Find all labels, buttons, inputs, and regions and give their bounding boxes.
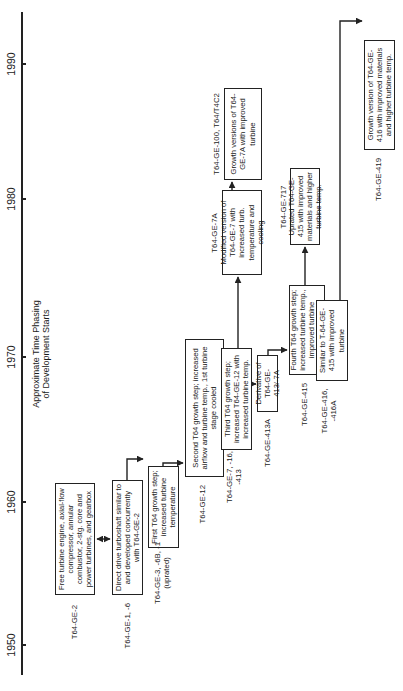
- node-ge7-model: T64-GE-7, -16, -413: [225, 450, 243, 504]
- node-ge3-model: T64-GE-3, -6B, -1 (uprated): [153, 538, 171, 608]
- node-ge12-description: Second T64 growth step; increased airflo…: [191, 343, 219, 473]
- node-ge416-box: Similar to T-64-GE-415 with improved tur…: [316, 300, 348, 381]
- node-ge7-box: Third T64 growth step; increased T64-GE-…: [221, 348, 252, 450]
- node-ge416-description: Similar to T-64-GE-415 with improved tur…: [318, 304, 346, 377]
- node-ge413a-model: T64-GE-413A: [263, 419, 272, 467]
- node-ge717-box: Uprated T64-GE-415 with improved materia…: [290, 168, 320, 245]
- node-ge413a-box: Derivative of T64-GE-413/-7A: [257, 355, 278, 412]
- node-ge100-model: T64-GE-100, T64/T4C2: [212, 93, 221, 175]
- diagram-canvas: 1950 1960 1970 1980 1990 Approximate Tim…: [0, 0, 403, 691]
- node-ge7a-description: Modified version of T64-GE-7 with increa…: [219, 194, 265, 271]
- node-ge3-box: First T64 growth step; increased turbine…: [148, 466, 179, 548]
- node-ge100-box: Growth versions of T64-GE-7A with improv…: [224, 88, 262, 180]
- node-ge717-model: T64-GE-717: [279, 186, 288, 229]
- node-ge1-description: Direct drive turboshaft similar to and d…: [114, 484, 142, 591]
- node-ge1-box: Direct drive turboshaft similar to and d…: [112, 480, 143, 595]
- node-ge12-model: T64-GE-12: [198, 485, 207, 524]
- node-ge419-description: Growth version of T64-GE-416 with improv…: [366, 44, 394, 146]
- node-ge2-box: Free turbine engine, axial-flow compress…: [55, 483, 95, 595]
- node-ge2-model: T64-GE-2: [70, 605, 79, 639]
- node-ge3-description: First T64 growth step; increased turbine…: [150, 470, 178, 544]
- node-ge7a-model: T64-GE-7A: [210, 213, 219, 252]
- node-ge413a-description: Derivative of T64-GE-413/-7A: [254, 359, 282, 408]
- node-ge7-description: Third T64 growth step; increased T64-GE-…: [223, 352, 251, 446]
- node-ge419-box: Growth version of T64-GE-416 with improv…: [364, 40, 395, 150]
- node-ge100-description: Growth versions of T64-GE-7A with improv…: [229, 92, 257, 176]
- node-ge12-box: Second T64 growth step; increased airflo…: [185, 339, 224, 477]
- node-ge416-model: T64-GE-416, -416A: [320, 384, 338, 438]
- node-ge7a-box: Modified version of T64-GE-7 with increa…: [222, 190, 262, 275]
- node-ge2-description: Free turbine engine, axial-flow compress…: [57, 487, 94, 591]
- node-ge419-model: T64-GE-419: [374, 158, 383, 201]
- node-ge1-model: T64-GE-1, -6: [123, 603, 132, 649]
- node-ge717-description: Uprated T64-GE-415 with improved materia…: [287, 172, 324, 241]
- node-ge415-model: T64-GE-415: [300, 383, 309, 426]
